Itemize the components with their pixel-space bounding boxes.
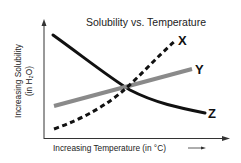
x-axis-arrow-icon: [222, 136, 230, 141]
svg-text:Increasing Temperature (in °C: Increasing Temperature (in °C): [53, 143, 166, 153]
svg-text:Increasing Solubility: Increasing Solubility: [13, 43, 23, 118]
chart-title: Solubility vs. Temperature: [86, 16, 206, 28]
series-y-line: [54, 69, 192, 106]
series-y-label: Y: [195, 62, 204, 77]
svg-text:(in H₂O): (in H₂O): [24, 66, 34, 96]
solubility-chart: Solubility vs. Temperature Increasing So…: [0, 0, 241, 163]
series-x-line: [54, 42, 174, 129]
y-axis-arrow-icon: [42, 19, 47, 26]
x-axis: [44, 136, 230, 141]
y-axis-label: Increasing Solubility (in H₂O): [13, 43, 34, 118]
series-x-label: X: [178, 33, 187, 48]
series-z-label: Z: [208, 106, 216, 121]
x-axis-label: Increasing Temperature (in °C): [53, 143, 206, 153]
y-axis: [42, 19, 47, 139]
